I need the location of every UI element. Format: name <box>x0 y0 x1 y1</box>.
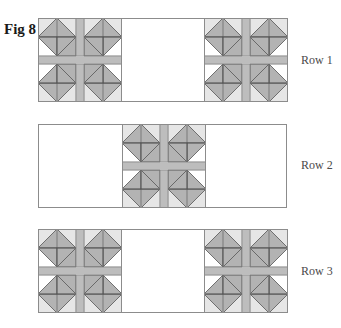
quilt-block <box>38 18 122 102</box>
row-label-2: Row 2 <box>301 158 333 173</box>
quilt-block <box>204 229 288 313</box>
figure-title: Fig 8 <box>4 21 36 38</box>
quilt-row-3 <box>38 229 287 313</box>
quilt-block <box>122 124 206 208</box>
quilt-row-2 <box>38 124 287 208</box>
quilt-block <box>204 18 288 102</box>
row-label-1: Row 1 <box>301 53 333 68</box>
quilt-row-1 <box>38 18 287 102</box>
quilt-block <box>38 229 122 313</box>
row-label-3: Row 3 <box>301 264 333 279</box>
